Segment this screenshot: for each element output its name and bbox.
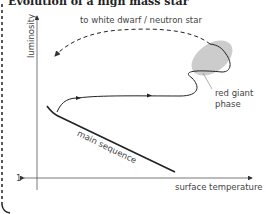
red-giant-region xyxy=(185,33,239,82)
dashed-path-label: to white dwarf / neutron star xyxy=(80,15,202,25)
origin-tick-label: 1 xyxy=(16,173,21,183)
main-sequence-line xyxy=(47,106,175,172)
red-giant-label-line1: red giant xyxy=(215,88,253,99)
x-axis-label: surface temperature xyxy=(175,182,263,192)
red-giant-label: red giant phase xyxy=(215,88,253,110)
y-axis-label: luminosity xyxy=(26,14,36,58)
diagram-frame: Evolution of a high mass star lu xyxy=(0,0,266,214)
red-giant-label-line2: phase xyxy=(215,99,253,110)
dashed-evolution-path xyxy=(55,29,210,56)
red-giant-pointer xyxy=(203,73,212,89)
